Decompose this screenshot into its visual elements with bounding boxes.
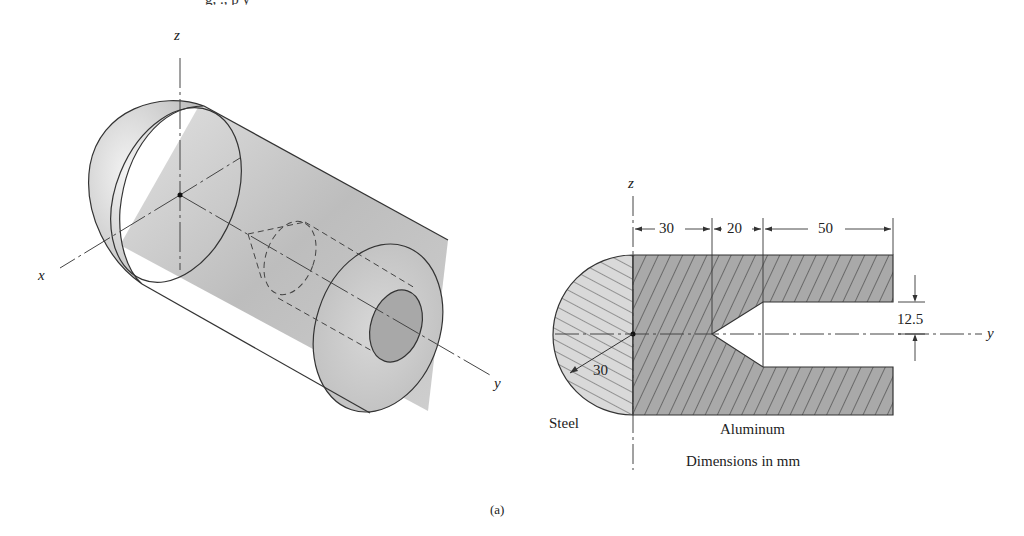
section-z-axis-label: z: [628, 176, 634, 191]
isometric-view: [60, 58, 490, 429]
bore-radius-label: 12.5: [897, 312, 923, 327]
steel-radius-label: 30: [593, 363, 608, 378]
dimension-30-label: 30: [659, 221, 674, 236]
iso-y-axis-label: y: [494, 376, 501, 391]
dimension-20-label: 20: [727, 221, 742, 236]
steel-section: [553, 255, 633, 415]
iso-z-axis-label: z: [174, 28, 180, 43]
aluminum-label: Aluminum: [720, 422, 785, 437]
figure-caption: (a): [490, 503, 504, 516]
section-y-axis-label: y: [987, 326, 994, 341]
units-note: Dimensions in mm: [686, 454, 800, 469]
iso-x-axis-label: x: [38, 268, 45, 283]
steel-label: Steel: [549, 416, 579, 431]
dimension-50-label: 50: [818, 221, 833, 236]
figure-canvas: [0, 0, 1024, 536]
